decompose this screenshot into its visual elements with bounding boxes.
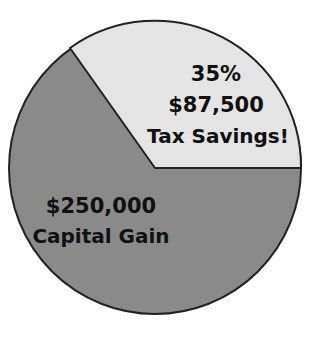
gain-caption-label: Capital Gain (32, 224, 169, 248)
gain-amount-label: $250,000 (46, 194, 156, 218)
savings-percent-label: 35% (191, 62, 241, 86)
savings-caption-label: Tax Savings! (147, 124, 289, 148)
savings-amount-label: $87,500 (168, 93, 264, 117)
pie-chart: 35% $87,500 Tax Savings! $250,000 Capita… (0, 0, 317, 340)
